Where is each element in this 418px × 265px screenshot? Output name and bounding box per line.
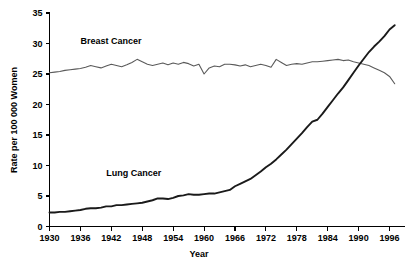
x-tick-label: 1936 [70, 233, 90, 243]
x-tick-label: 1996 [380, 233, 400, 243]
lung-breast-cancer-mortality-chart: 05101520253035 1930193619421948195419601… [0, 0, 418, 265]
x-tick-label: 1978 [287, 233, 307, 243]
y-tick-label: 30 [32, 39, 42, 49]
x-tick-label: 1966 [225, 233, 245, 243]
y-tick-label: 15 [32, 130, 42, 140]
y-tick-label: 10 [32, 161, 42, 171]
x-tick-label: 1948 [132, 233, 152, 243]
y-tick-label: 5 [37, 191, 42, 201]
breast-cancer-label: Breast Cancer [80, 36, 142, 46]
y-axis-ticks [46, 13, 50, 227]
chart-canvas: 05101520253035 1930193619421948195419601… [0, 0, 418, 265]
x-tick-label: 1954 [163, 233, 183, 243]
x-axis-ticks [50, 227, 390, 231]
x-tick-label: 1942 [101, 233, 121, 243]
x-tick-label: 1984 [318, 233, 338, 243]
y-axis-title: Rate per 100 000 Women [9, 67, 19, 173]
x-tick-label: 1930 [39, 233, 59, 243]
y-axis-tick-labels: 05101520253035 [32, 8, 42, 232]
lung-cancer-label: Lung Cancer [106, 168, 162, 178]
series-line-lung-cancer [50, 25, 395, 212]
series-annotations: Breast CancerLung Cancer [80, 36, 161, 179]
x-tick-label: 1972 [256, 233, 276, 243]
x-tick-label: 1990 [349, 233, 369, 243]
x-tick-label: 1960 [194, 233, 214, 243]
data-series-group [50, 25, 395, 212]
x-axis-title: Year [189, 249, 209, 259]
y-tick-label: 35 [32, 8, 42, 18]
y-tick-label: 25 [32, 69, 42, 79]
x-axis-tick-labels: 1930193619421948195419601966197219781984… [39, 233, 399, 243]
y-tick-label: 0 [37, 222, 42, 232]
series-line-breast-cancer [50, 59, 395, 83]
y-tick-label: 20 [32, 100, 42, 110]
